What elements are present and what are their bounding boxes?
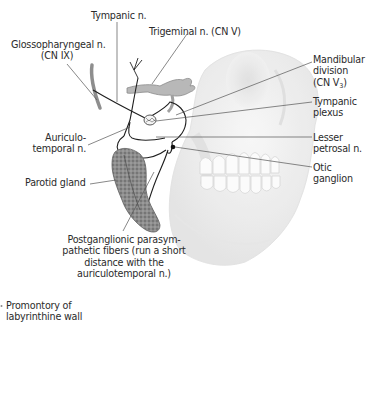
label-promontory-line1: Promontory of [6, 300, 82, 311]
label-lesser-petrosal-line2: petrosal n. [313, 143, 362, 154]
label-tympanic-plexus: Tympanic plexus [313, 96, 357, 119]
label-postganglionic-line3: distance with the [49, 257, 199, 268]
label-lesser-petrosal-line1: Lesser [313, 132, 362, 143]
label-postganglionic-line4: auriculotemporal n.) [49, 268, 199, 279]
label-lesser-petrosal-nerve: Lesser petrosal n. [313, 132, 362, 155]
label-postganglionic-fibers: Postganglionic parasym- pathetic fibers … [49, 234, 199, 280]
tympanic-plexus [144, 115, 156, 125]
label-auriculotemporal-nerve: Auriculo- temporal n. [20, 132, 86, 155]
label-mandibular-suffix: ) [343, 77, 347, 88]
label-tympanic-plexus-line2: plexus [313, 107, 357, 118]
label-auriculotemporal-line2: temporal n. [20, 143, 86, 154]
label-otic-ganglion-line2: ganglion [313, 173, 353, 184]
otic-ganglion [171, 145, 176, 150]
tympanic-nerve-branches [130, 58, 142, 78]
label-mandibular-division: Mandibular division (CN V3) [313, 54, 365, 88]
label-glossopharyngeal-line1: Glossopharyngeal n. [11, 39, 103, 50]
label-tympanic-plexus-line1: Tympanic [313, 96, 357, 107]
label-tympanic-nerve: Tympanic n. [91, 10, 146, 21]
label-postganglionic-line1: Postganglionic parasym- [49, 234, 199, 245]
label-glossopharyngeal-line2: (CN IX) [11, 50, 103, 61]
label-mandibular-prefix: (CN V [313, 77, 339, 88]
label-auriculotemporal-line1: Auriculo- [20, 132, 86, 143]
label-mandibular-line2: division [313, 65, 365, 76]
label-otic-ganglion: Otic ganglion [313, 162, 353, 185]
label-mandibular-line3: (CN V3) [313, 77, 365, 88]
label-postganglionic-line2: pathetic fibers (run a short [49, 245, 199, 256]
label-parotid-gland: Parotid gland [25, 177, 86, 188]
label-mandibular-line1: Mandibular [313, 54, 365, 65]
label-promontory-line2: labyrinthine wall [6, 311, 82, 322]
glossopharyngeal-nerve [91, 65, 100, 108]
promontory-marker [1, 305, 3, 307]
label-otic-ganglion-line1: Otic [313, 162, 353, 173]
label-glossopharyngeal-nerve: Glossopharyngeal n. (CN IX) [11, 39, 103, 62]
label-trigeminal-nerve: Trigeminal n. (CN V) [149, 26, 241, 37]
label-promontory: Promontory of labyrinthine wall [6, 300, 82, 323]
